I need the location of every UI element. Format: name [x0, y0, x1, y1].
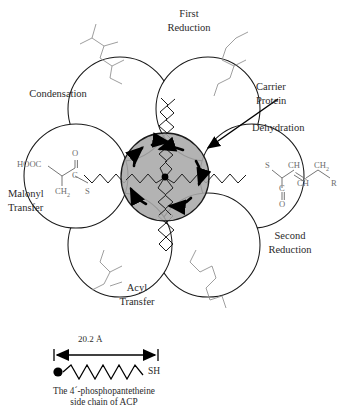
label-dehydration: Dehydration: [252, 122, 348, 134]
atom-dehydr-ch-b: CH: [297, 178, 309, 188]
scale-caption-line1: The 4´-phosphopantetheine: [14, 386, 194, 397]
label-second-reduction-l2: Reduction: [248, 244, 332, 256]
sh-label: SH: [148, 366, 160, 376]
atom-dehydr-o: O: [279, 199, 285, 209]
label-malonyl-transfer-l2: Transfer: [8, 202, 72, 214]
scale-caption-line2: side chain of ACP: [14, 397, 194, 408]
atom-malonyl-c: C: [72, 170, 78, 180]
carrier-protein-hub: [121, 133, 209, 221]
atom-dehydr-ch2: CH2: [314, 160, 329, 172]
atom-hooc: HOOC: [17, 159, 41, 169]
label-acyl-transfer-l2: Transfer: [106, 296, 168, 308]
atom-malonyl-o: O: [72, 148, 78, 158]
figure-root: Condensation First Reduction Carrier Pro…: [0, 0, 352, 411]
label-first-reduction-l1: First: [150, 8, 228, 20]
scale-bar-value: 20.2 Å: [78, 334, 103, 344]
pantetheine-schematic: [53, 365, 143, 379]
label-acyl-transfer-l1: Acyl: [106, 282, 168, 294]
atom-dehydr-r: R: [331, 178, 337, 188]
scale-bar: [54, 349, 158, 361]
atom-dehydr-s: S: [265, 160, 270, 170]
label-condensation: Condensation: [8, 88, 108, 100]
label-second-reduction-l1: Second: [248, 230, 332, 242]
atom-dehydr-ch-a: CH: [288, 160, 300, 170]
label-first-reduction-l2: Reduction: [150, 22, 228, 34]
label-carrier-protein-l2: Protein: [256, 95, 316, 107]
atom-malonyl-ch2: CH2: [55, 186, 70, 198]
atom-dehydr-c: C: [279, 183, 285, 193]
label-carrier-protein-l1: Carrier: [256, 81, 316, 93]
hub-center-dot: [162, 174, 169, 181]
atom-malonyl-s: S: [85, 186, 90, 196]
